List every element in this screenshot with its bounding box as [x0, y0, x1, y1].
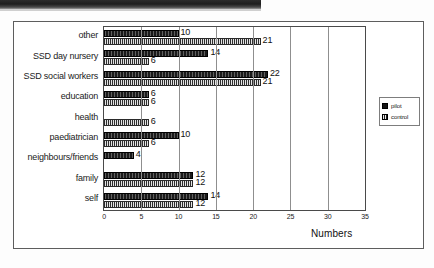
category-label: paediatrician [50, 132, 98, 142]
bar-value-label: 21 [263, 37, 273, 44]
x-tick-label: 20 [249, 213, 256, 220]
category-label: other [78, 30, 98, 40]
legend-label-control: control [391, 114, 408, 120]
bar-row: 106 [104, 129, 365, 149]
bar-pilot [104, 172, 193, 179]
bar-control [104, 79, 261, 86]
bar-pilot [104, 71, 268, 78]
plot-area: 10211462221666106412121412 [103, 26, 366, 211]
bar-control [104, 201, 193, 208]
x-tick-label: 5 [139, 213, 143, 220]
category-label: family [76, 173, 98, 183]
bar-pilot [104, 193, 208, 200]
bar-row: 66 [104, 88, 365, 108]
bar-row: 6 [104, 108, 365, 128]
chart-legend: pilot control [379, 97, 420, 126]
bar-rows: 10211462221666106412121412 [104, 27, 365, 210]
gridline-15 [216, 27, 217, 210]
bar-value-label: 4 [136, 151, 141, 158]
bar-row: 1021 [104, 27, 365, 47]
x-tick-label: 25 [287, 213, 294, 220]
bar-row: 1412 [104, 190, 365, 210]
x-axis-title: Numbers [311, 228, 352, 239]
legend-label-pilot: pilot [391, 103, 402, 109]
bar-pilot [104, 50, 208, 57]
category-label: SSD day nursery [33, 51, 98, 61]
category-label: self [85, 193, 98, 203]
bar-value-label: 10 [181, 29, 191, 36]
bar-row: 1212 [104, 169, 365, 189]
x-tick-label: 15 [212, 213, 219, 220]
bar-value-label: 6 [151, 57, 156, 64]
chart-page: otherSSD day nurserySSD social workersed… [0, 0, 434, 268]
category-axis-labels: otherSSD day nurserySSD social workersed… [13, 26, 101, 211]
bar-row: 2221 [104, 68, 365, 88]
bar-control [104, 38, 261, 45]
bar-row: 4 [104, 149, 365, 169]
legend-swatch-pilot-icon [382, 103, 388, 109]
x-tick-label: 10 [175, 213, 182, 220]
gridline-25 [290, 27, 291, 210]
legend-swatch-control-icon [382, 114, 388, 120]
bar-value-label: 10 [181, 131, 191, 138]
gridline-20 [253, 27, 254, 210]
bar-value-label: 12 [195, 179, 205, 186]
bar-value-label: 6 [151, 139, 156, 146]
legend-item-pilot: pilot [382, 100, 417, 111]
bar-value-label: 12 [195, 200, 205, 207]
category-label: education [61, 91, 98, 101]
category-label: SSD social workers [24, 71, 98, 81]
gridline-5 [141, 27, 142, 210]
bar-row: 146 [104, 47, 365, 67]
bar-pilot [104, 152, 134, 159]
category-label: neighbours/friends [28, 152, 98, 162]
legend-item-control: control [382, 111, 417, 122]
scan-artifact-edge [0, 9, 261, 11]
x-axis-ticks: 05101520253035 [103, 213, 366, 225]
x-tick-label: 30 [324, 213, 331, 220]
x-tick-label: 35 [361, 213, 368, 220]
x-tick-label: 0 [102, 213, 106, 220]
bar-control [104, 180, 193, 187]
bar-value-label: 6 [151, 98, 156, 105]
bar-value-label: 21 [263, 78, 273, 85]
gridline-10 [179, 27, 180, 210]
gridline-30 [328, 27, 329, 210]
category-label: health [75, 112, 98, 122]
bar-value-label: 6 [151, 118, 156, 125]
scan-artifact-band [0, 0, 261, 9]
